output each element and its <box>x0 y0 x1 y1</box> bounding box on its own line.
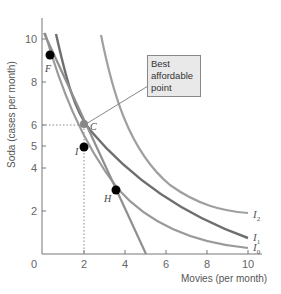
y-tick-label-6: 6 <box>31 119 37 131</box>
x-tick-label-8: 8 <box>204 258 210 270</box>
curve-label-i2: I2 <box>252 208 261 223</box>
point-h <box>112 186 121 195</box>
x-axis-title: Movies (per month) <box>181 273 267 284</box>
callout-leader <box>86 86 148 124</box>
y-tick-label-2: 2 <box>31 205 37 217</box>
y-tick-label-10: 10 <box>25 33 37 45</box>
best-affordable-point-callout: Best affordable point <box>147 55 201 97</box>
chart-canvas: 2 4 5 6 8 10 0 2 4 6 8 10 Movies (per mo… <box>0 0 281 294</box>
point-label-f: F <box>44 63 52 74</box>
point-label-c: C <box>90 121 97 132</box>
point-f <box>46 51 55 60</box>
x-tick-label-6: 6 <box>163 258 169 270</box>
x-tick-label-10: 10 <box>242 258 254 270</box>
x-tick-label-4: 4 <box>122 258 128 270</box>
origin-label: 0 <box>31 258 37 270</box>
point-label-h: H <box>103 193 112 204</box>
point-c <box>80 120 88 128</box>
y-tick-label-8: 8 <box>31 76 37 88</box>
point-label-i: I <box>74 146 79 157</box>
x-tick-label-2: 2 <box>81 258 87 270</box>
x-ticks <box>84 250 248 254</box>
budget-line <box>44 33 146 254</box>
y-tick-label-4: 4 <box>31 162 37 174</box>
point-i <box>80 143 89 152</box>
y-axis-title: Soda (cases per month) <box>6 61 17 168</box>
y-tick-label-5: 5 <box>31 140 37 152</box>
